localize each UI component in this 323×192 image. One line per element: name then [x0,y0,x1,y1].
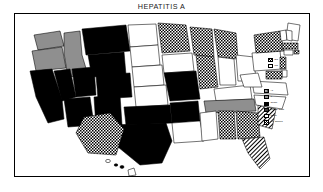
legend-item[interactable]: Vir. Samoa [264,120,284,124]
legend-swatch-white-icon [264,114,269,118]
legend-item[interactable]: <1 [264,89,284,93]
legend-swatch-hatched-icon [268,58,273,62]
legend-label: DC [274,59,278,62]
state-oklahoma [124,105,172,125]
legend-item[interactable]: Guam [264,102,284,106]
state-wisconsin [190,27,214,57]
legend-item[interactable]: 1- [264,95,284,99]
state-north-dakota [128,24,158,47]
state-mississippi [200,111,218,141]
state-maryland [266,71,282,79]
state-hawaii [106,159,136,176]
state-montana [82,25,130,55]
legend-swatch-dark-icon [264,108,269,112]
legend-label: Vir. Samoa [270,121,282,124]
state-florida [242,137,270,169]
state-new-jersey [280,57,286,69]
state-west-virginia [240,73,262,87]
state-colorado [96,73,132,99]
legend-swatch-white-icon [268,64,273,68]
state-georgia [236,111,260,139]
state-arkansas [170,101,200,123]
state-michigan [214,29,238,59]
legend-label: <1 [270,90,273,93]
state-kentucky [214,85,252,101]
chart-title: HEPATITIS A [0,2,323,11]
legend-top-group: DC US [268,58,278,71]
state-alabama [218,111,236,139]
state-connecticut [284,50,293,55]
legend-item[interactable]: CNMI [264,114,284,118]
state-minnesota [158,23,190,53]
state-wyoming [88,52,126,77]
state-nebraska [132,65,164,87]
legend-label: US [274,65,277,68]
legend-swatch-checkered-icon [264,89,269,93]
state-south-dakota [130,45,160,67]
legend-item[interactable]: Puerto Trust [264,108,284,112]
state-massachusetts [282,43,298,49]
state-missouri [164,71,200,101]
legend-label: 1- [270,96,272,99]
legend-swatch-hatched-icon [264,120,269,124]
state-louisiana [172,121,204,143]
state-indiana [218,57,236,85]
state-delaware [282,70,287,77]
state-illinois [196,55,218,89]
state-new-york [254,31,284,53]
legend-swatch-gray-icon [264,95,269,99]
legend-label: Guam [270,102,277,105]
state-new-hampshire [286,30,292,41]
state-kansas [134,85,168,107]
state-rhode-island [294,50,299,54]
legend-item[interactable]: DC [268,58,278,62]
legend-swatch-black-icon [264,102,269,106]
state-iowa [162,53,194,73]
legend-bottom-group: <1 1- Guam Puerto Trust CNMI Vir. Samoa [264,89,284,127]
hepatitis-a-map-figure: HEPATITIS A [0,0,323,192]
legend-label: CNMI [270,115,276,118]
legend-item[interactable]: US [268,64,278,68]
state-oregon [32,47,66,71]
legend-label: Puerto Trust [270,109,284,112]
